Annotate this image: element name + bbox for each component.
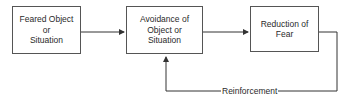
node-reduction-of-fear: Reduction of Fear (250, 6, 319, 52)
reinforcement-label: Reinforcement (221, 86, 278, 96)
node-avoidance-label: Avoidance of Object or Situation (140, 14, 189, 46)
node-avoidance: Avoidance of Object or Situation (126, 6, 203, 54)
node-feared-object-label: Feared Object or Situation (20, 14, 74, 46)
node-reduction-label: Reduction of Fear (261, 19, 309, 40)
node-feared-object: Feared Object or Situation (12, 6, 81, 54)
